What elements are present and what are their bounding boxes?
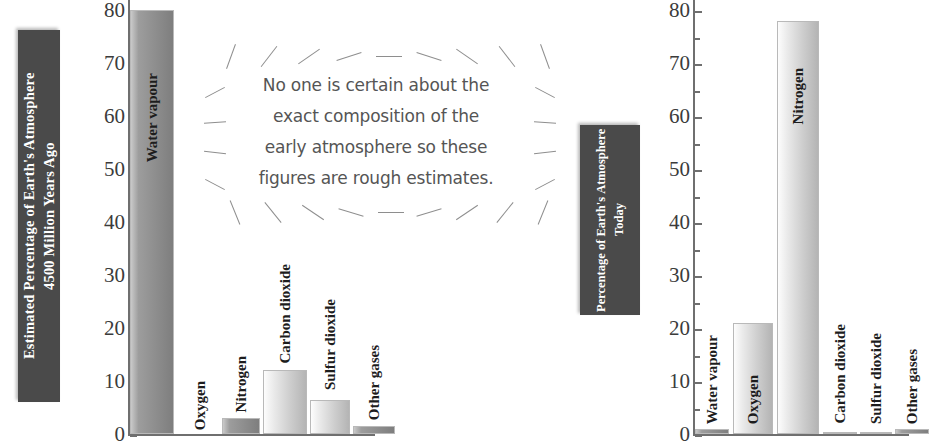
y-tick-major-80 bbox=[695, 11, 702, 13]
chart-today-atmosphere: 80706050403020100 Water vapourOxygenNitr… bbox=[650, 0, 909, 440]
y-tick-label-10: 10 bbox=[87, 369, 125, 394]
bar-other-gases[interactable] bbox=[895, 429, 929, 434]
y-tick-label-80: 80 bbox=[87, 0, 125, 23]
y-tick-label-20: 20 bbox=[87, 316, 125, 341]
bar-carbon-dioxide[interactable] bbox=[823, 432, 857, 434]
sunburst-ray bbox=[456, 205, 478, 220]
x-axis-line-today bbox=[693, 434, 909, 436]
sunburst-ray bbox=[456, 49, 478, 65]
y-tick-minor-15 bbox=[695, 356, 700, 358]
sunburst-ray bbox=[302, 205, 324, 220]
sunburst-ray bbox=[496, 202, 513, 223]
sunburst-ray bbox=[416, 52, 441, 61]
y-tick-major-60 bbox=[695, 117, 702, 119]
y-tick-label-60: 60 bbox=[87, 104, 125, 129]
y-tick-label-50: 50 bbox=[87, 157, 125, 182]
bar-label-sulfur-dioxide: Sulfur dioxide bbox=[322, 299, 339, 390]
y-tick-major-50 bbox=[695, 170, 702, 172]
y-tick-label-40: 40 bbox=[87, 210, 125, 235]
bar-label-other-gases: Other gases bbox=[366, 345, 383, 420]
y-tick-label-30: 30 bbox=[87, 263, 125, 288]
y-tick-major-30 bbox=[695, 276, 702, 278]
sunburst-ray bbox=[298, 49, 320, 65]
bar-oxygen[interactable] bbox=[733, 323, 773, 434]
y-tick-label-0: 0 bbox=[87, 422, 125, 445]
y-tick-label-0: 0 bbox=[652, 422, 690, 445]
chart-title-today-atmosphere: Percentage of Earth's Atmosphere Today bbox=[580, 125, 640, 315]
sunburst-ray bbox=[336, 52, 361, 61]
x-axis-line-early bbox=[128, 434, 375, 436]
sunburst-ray bbox=[535, 179, 555, 190]
chart-title-early-line1: Estimated Percentage of Earth's Atmosphe… bbox=[19, 73, 39, 360]
annotation-line-1: No one is certain about the bbox=[214, 70, 538, 101]
y-tick-label-50: 50 bbox=[652, 157, 690, 182]
bar-water-vapour[interactable] bbox=[130, 10, 174, 434]
bar-label-other-gases: Other gases bbox=[904, 349, 921, 424]
bar-label-oxygen: Oxygen bbox=[192, 381, 209, 430]
bar-label-nitrogen: Nitrogen bbox=[233, 356, 250, 412]
y-tick-label-60: 60 bbox=[652, 104, 690, 129]
sunburst-ray bbox=[378, 212, 404, 213]
bar-sulfur-dioxide[interactable] bbox=[310, 400, 350, 434]
bar-nitrogen[interactable] bbox=[222, 418, 260, 434]
sunburst-ray bbox=[264, 202, 281, 223]
y-tick-label-70: 70 bbox=[87, 51, 125, 76]
y-tick-major-20 bbox=[695, 329, 702, 331]
sunburst-ray bbox=[226, 44, 236, 69]
bar-nitrogen[interactable] bbox=[777, 21, 819, 434]
y-tick-minor-35 bbox=[695, 250, 700, 252]
sunburst-ray bbox=[416, 208, 441, 217]
bar-label-sulfur-dioxide: Sulfur dioxide bbox=[868, 333, 885, 424]
chart-title-today-line1: Percentage of Earth's bbox=[594, 197, 608, 312]
bar-water-vapour[interactable] bbox=[695, 429, 729, 434]
y-tick-label-20: 20 bbox=[652, 316, 690, 341]
y-tick-label-30: 30 bbox=[652, 263, 690, 288]
annotation-line-2: exact composition of the bbox=[214, 101, 538, 132]
y-tick-minor-25 bbox=[695, 303, 700, 305]
bar-other-gases[interactable] bbox=[353, 426, 395, 434]
sunburst-ray bbox=[230, 200, 241, 224]
annotation-line-3: early atmosphere so these bbox=[214, 132, 538, 163]
y-tick-minor-55 bbox=[695, 144, 700, 146]
y-tick-minor-45 bbox=[695, 197, 700, 199]
chart-title-early-atmosphere: Estimated Percentage of Earth's Atmosphe… bbox=[18, 30, 60, 402]
bar-label-carbon-dioxide: Carbon dioxide bbox=[832, 324, 849, 424]
sunburst-ray bbox=[261, 46, 278, 67]
bar-carbon-dioxide[interactable] bbox=[263, 370, 307, 434]
y-tick-major-70 bbox=[695, 64, 702, 66]
y-tick-minor-75 bbox=[695, 38, 700, 40]
y-tick-major-0 bbox=[130, 435, 137, 437]
y-tick-minor-65 bbox=[695, 91, 700, 93]
annotation-line-4: figures are rough estimates. bbox=[214, 163, 538, 194]
bar-sulfur-dioxide[interactable] bbox=[860, 432, 892, 434]
chart-title-early-line2: 4500 Million Years Ago bbox=[39, 73, 59, 360]
bar-label-carbon-dioxide: Carbon dioxide bbox=[277, 264, 294, 364]
sunburst-ray bbox=[540, 44, 550, 69]
annotation-text: No one is certain about the exact compos… bbox=[214, 70, 538, 194]
y-tick-label-10: 10 bbox=[652, 369, 690, 394]
y-tick-minor-5 bbox=[695, 409, 700, 411]
bar-label-water-vapour: Water vapour bbox=[704, 335, 721, 424]
y-tick-major-40 bbox=[695, 223, 702, 225]
sunburst-ray bbox=[535, 87, 555, 98]
sunburst-ray bbox=[499, 46, 516, 67]
y-tick-label-70: 70 bbox=[652, 51, 690, 76]
y-tick-label-80: 80 bbox=[652, 0, 690, 23]
annotation-callout: No one is certain about the exact compos… bbox=[196, 34, 556, 234]
y-tick-label-40: 40 bbox=[652, 210, 690, 235]
sunburst-ray bbox=[376, 56, 402, 57]
y-tick-major-0 bbox=[695, 435, 702, 437]
sunburst-ray bbox=[538, 200, 549, 224]
sunburst-ray bbox=[338, 208, 363, 217]
y-tick-major-10 bbox=[695, 382, 702, 384]
